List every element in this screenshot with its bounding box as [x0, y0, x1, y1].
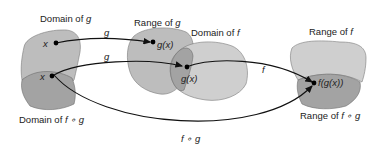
- point-fgx: [312, 81, 317, 86]
- function-composition-diagram: Domain of g Range of g Domain of f Range…: [0, 0, 385, 151]
- point-gx-bottom: [185, 65, 190, 70]
- label-arrow-g-bottom: g: [104, 51, 110, 62]
- domain-of-fog-region: [21, 72, 75, 110]
- label-domain-of-fog: Domain of f ∘ g: [19, 114, 85, 125]
- label-arrow-g-top: g: [104, 27, 110, 38]
- label-arrow-f: f: [262, 64, 266, 75]
- label-domain-of-f: Domain of f: [191, 27, 241, 38]
- label-gx-bottom: g(x): [181, 73, 197, 84]
- label-range-of-g: Range of g: [134, 17, 181, 28]
- point-gx-top: [151, 40, 156, 45]
- label-range-of-f: Range of f: [309, 26, 354, 37]
- label-fgx: f(g(x)): [318, 77, 343, 88]
- label-arrow-fog: f ∘ g: [181, 133, 201, 144]
- label-gx-top: g(x): [157, 39, 173, 50]
- label-domain-of-g: Domain of g: [40, 13, 92, 24]
- label-range-of-fog: Range of f ∘ g: [300, 110, 361, 121]
- point-x-bottom: [50, 74, 55, 79]
- point-x-top: [54, 41, 59, 46]
